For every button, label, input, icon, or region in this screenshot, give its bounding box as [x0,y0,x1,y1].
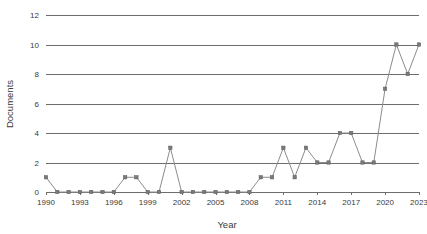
data-point-2009 [259,176,262,179]
data-point-1990 [44,176,47,179]
x-tick-label-2014: 2014 [308,198,326,207]
data-point-2023 [417,43,420,46]
y-tick-label-0: 0 [35,188,40,197]
data-point-2008 [248,190,251,193]
series-markers-group [44,43,420,194]
data-point-2004 [203,190,206,193]
y-tick-label-10: 10 [30,41,39,50]
x-tick-label-1990: 1990 [37,198,55,207]
data-point-2003 [191,190,194,193]
data-point-2002 [180,190,183,193]
data-point-1994 [90,190,93,193]
data-point-1998 [135,176,138,179]
data-point-2020 [383,87,386,90]
data-point-2019 [372,161,375,164]
data-point-2005 [214,190,217,193]
gridlines-group [46,16,419,193]
y-axis-title: Documents [4,80,15,128]
data-point-2022 [406,72,409,75]
x-tick-label-2008: 2008 [241,198,259,207]
x-tick-label-2020: 2020 [376,198,394,207]
data-point-2016 [338,131,341,134]
data-point-2001 [169,146,172,149]
x-tick-label-2023: 2023 [410,198,427,207]
data-point-1995 [101,190,104,193]
x-tick-label-1993: 1993 [71,198,89,207]
series-line-documents [46,45,419,193]
x-axis-title: Year [217,219,236,230]
line-chart: 024681012 199019931996199920022005200820… [0,0,427,234]
data-point-2018 [361,161,364,164]
y-tick-label-4: 4 [35,129,40,138]
y-tick-labels-group: 024681012 [30,11,39,197]
data-point-1992 [67,190,70,193]
data-point-1993 [78,190,81,193]
data-point-2021 [395,43,398,46]
data-point-2010 [270,176,273,179]
data-point-1991 [56,190,59,193]
data-point-1999 [146,190,149,193]
data-point-2007 [236,190,239,193]
y-tick-label-8: 8 [35,70,40,79]
x-tick-label-1999: 1999 [139,198,157,207]
x-tick-labels-group: 1990199319961999200220052008201120142017… [37,198,427,207]
data-point-2014 [316,161,319,164]
y-tick-label-2: 2 [35,159,40,168]
x-tick-label-2002: 2002 [173,198,191,207]
x-tick-label-2005: 2005 [207,198,225,207]
data-point-1996 [112,190,115,193]
data-point-2006 [225,190,228,193]
x-tick-label-2011: 2011 [275,198,293,207]
y-tick-label-12: 12 [30,11,39,20]
data-point-2015 [327,161,330,164]
data-point-2012 [293,176,296,179]
data-point-2000 [157,190,160,193]
x-tick-label-2017: 2017 [342,198,360,207]
data-point-2011 [282,146,285,149]
chart-canvas: 024681012 199019931996199920022005200820… [0,0,427,234]
x-tick-label-1996: 1996 [105,198,123,207]
data-point-1997 [123,176,126,179]
y-tick-label-6: 6 [35,100,40,109]
data-point-2013 [304,146,307,149]
data-point-2017 [349,131,352,134]
